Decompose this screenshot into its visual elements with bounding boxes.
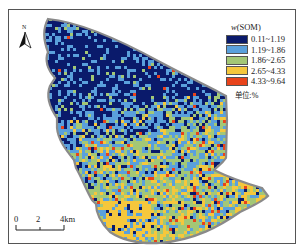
north-arrow-icon bbox=[18, 26, 32, 56]
scale-label-4km: 4km bbox=[60, 214, 75, 224]
legend-range-label: 1.19~1.86 bbox=[251, 45, 285, 55]
scale-label-0: 0 bbox=[14, 214, 18, 224]
legend-range-label: 4.33~9.64 bbox=[251, 76, 285, 86]
legend-item: 4.33~9.64 bbox=[226, 76, 285, 87]
legend-unit: 单位:% bbox=[235, 89, 285, 100]
legend-range-label: 0.11~1.19 bbox=[251, 34, 285, 44]
legend-title-text: (SOM) bbox=[237, 22, 261, 32]
legend-range-label: 2.65~4.33 bbox=[251, 66, 285, 76]
legend-swatch bbox=[226, 56, 248, 65]
scale-label-2: 2 bbox=[36, 214, 40, 224]
legend-item: 2.65~4.33 bbox=[226, 66, 285, 77]
legend-swatch bbox=[226, 35, 248, 44]
legend-title: w(SOM) bbox=[231, 22, 285, 32]
legend-item: 0.11~1.19 bbox=[226, 34, 285, 45]
legend-swatch bbox=[226, 45, 248, 54]
legend-swatch bbox=[226, 77, 248, 86]
legend-range-label: 1.86~2.65 bbox=[251, 55, 285, 65]
scale-bar-line bbox=[14, 224, 74, 232]
legend-item: 1.86~2.65 bbox=[226, 55, 285, 66]
legend-swatch bbox=[226, 66, 248, 75]
legend-item: 1.19~1.86 bbox=[226, 45, 285, 56]
legend: w(SOM) 0.11~1.191.19~1.861.86~2.652.65~4… bbox=[226, 22, 285, 100]
